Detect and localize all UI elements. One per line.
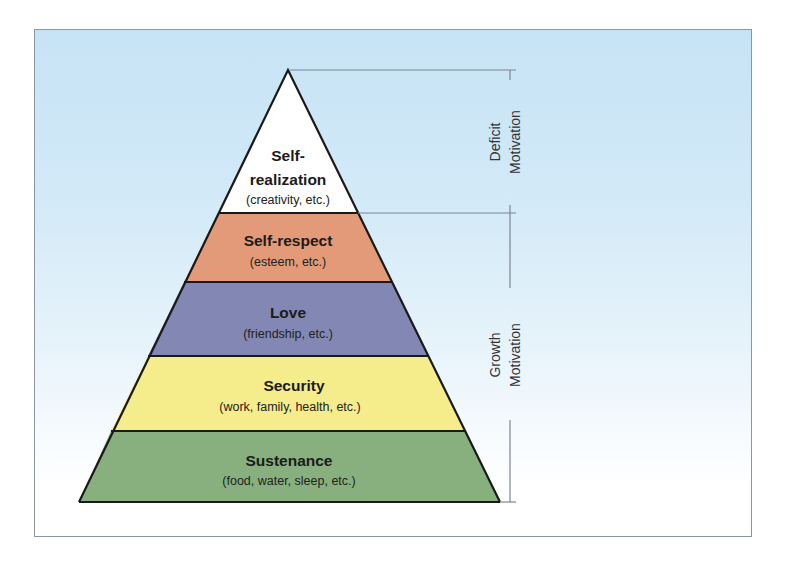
level-title-security: Security: [263, 377, 325, 394]
level-subtitle-sustenance: (food, water, sleep, etc.): [222, 474, 355, 488]
level-title-self-realization-line1: Self-: [271, 147, 305, 164]
growth-label-line1: Growth: [487, 332, 503, 377]
level-subtitle-love: (friendship, etc.): [243, 327, 333, 341]
level-title-love: Love: [270, 304, 307, 321]
maslow-pyramid-diagram: Self- realization (creativity, etc.) Sel…: [0, 0, 786, 566]
level-subtitle-self-realization: (creativity, etc.): [246, 193, 330, 207]
level-title-self-respect: Self-respect: [244, 232, 333, 249]
growth-motivation-label: Growth Motivation: [487, 323, 523, 387]
level-title-self-realization-line2: realization: [250, 171, 327, 188]
growth-label-line2: Motivation: [507, 323, 523, 387]
deficit-label-line1: Deficit: [487, 122, 503, 161]
level-subtitle-self-respect: (esteem, etc.): [250, 255, 326, 269]
level-subtitle-security: (work, family, health, etc.): [219, 400, 360, 414]
layer-self-realization: [218, 70, 358, 213]
deficit-motivation-label: Deficit Motivation: [487, 110, 523, 174]
level-title-sustenance: Sustenance: [245, 452, 332, 469]
deficit-label-line2: Motivation: [507, 110, 523, 174]
